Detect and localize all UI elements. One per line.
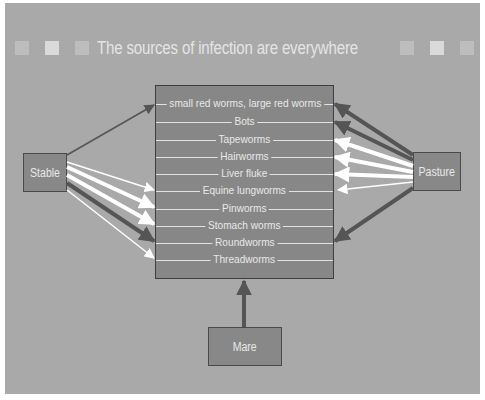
arrow-pasture-hairworms [335,157,413,172]
arrow-pasture-roundworms [335,188,413,241]
arrow-pasture-equine-lungworms [338,182,413,190]
connection-arrows [0,0,485,400]
arrow-stable-small-red-worms [67,105,154,155]
arrow-pasture-liver-fluke [335,174,413,177]
arrow-stable-roundworms [67,183,154,241]
